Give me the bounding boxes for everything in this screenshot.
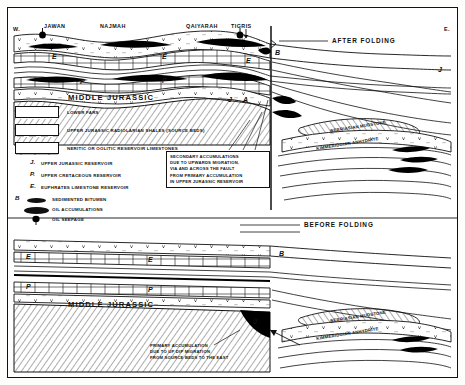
legend-swatch-oil-lens bbox=[24, 207, 49, 214]
locality-najmah: NAJMAH bbox=[100, 23, 126, 29]
legend-letter-p: P. bbox=[30, 170, 35, 177]
legend-label-oil-seepage: OIL SEEPAGE bbox=[52, 217, 84, 222]
fault-accumulation-3 bbox=[272, 110, 302, 118]
formation-middle-jurassic-upper: MIDDLE JURASSIC bbox=[68, 93, 154, 102]
unit-marker-j-2: J bbox=[228, 96, 232, 103]
figure-root: v — bbox=[0, 0, 465, 385]
unit-marker-b-upper: B bbox=[275, 49, 280, 56]
unit-marker-e-lower-2: E bbox=[148, 256, 153, 263]
east-limb-upper bbox=[272, 62, 451, 200]
unit-marker-e-3: E bbox=[246, 57, 251, 64]
unit-marker-b-lower: B bbox=[279, 250, 284, 257]
legend-swatch-shale-border bbox=[15, 124, 59, 136]
formation-middle-jurassic-lower: MIDDLE JURASSIC bbox=[68, 300, 154, 309]
legend-label-oil-accumulations: OIL ACCUMULATIONS bbox=[52, 207, 103, 212]
bitumen-seam-lower bbox=[14, 274, 270, 282]
legend-label-bitumen: SEDIMENTED BITUMEN bbox=[52, 197, 107, 202]
fault-accumulation-2 bbox=[272, 96, 296, 104]
annotation-box-secondary-accumulation: SECONDARY ACCUMULATIONS DUE TO UPWARDS M… bbox=[166, 151, 270, 188]
legend-label-reservoir-limestones: NERITIC OR OOLITIC RESERVOIR LIMESTONES bbox=[67, 146, 178, 151]
legend-label-radiolarian-shale: UPPER JURASSIC RADIOLARIAN SHALES (SOURC… bbox=[67, 128, 205, 133]
source-bed-lens-lower-2 bbox=[400, 347, 438, 353]
legend-label-j: UPPER JURASSIC RESERVOIR bbox=[41, 161, 113, 166]
legend-swatch-bitumen-lens bbox=[27, 198, 46, 203]
legend-label-lower-fars: LOWER FARS bbox=[67, 110, 99, 115]
legend-letter-j: J. bbox=[30, 158, 35, 165]
unit-marker-j-1: J bbox=[438, 66, 442, 73]
legend-letter-b: B bbox=[15, 194, 19, 201]
locality-qaiyarah: QAIYARAH bbox=[186, 23, 218, 29]
unit-marker-p-1: P bbox=[80, 78, 85, 85]
locality-jawan: JAWAN bbox=[44, 23, 65, 29]
panel-title-after-folding: AFTER FOLDING bbox=[332, 37, 396, 44]
unit-marker-e-2: E bbox=[162, 53, 167, 60]
annotation-upper-line-5: IN UPPER JURASSIC RESERVOIR bbox=[170, 179, 266, 185]
middle-jurassic-core-lower bbox=[14, 304, 270, 372]
orientation-west: W. bbox=[13, 26, 20, 32]
orientation-east: E. bbox=[444, 26, 450, 32]
legend-letter-e: E. bbox=[30, 182, 36, 189]
unit-marker-a-upper: A bbox=[243, 96, 248, 103]
source-bed-lens-1 bbox=[392, 146, 430, 152]
unit-marker-e-1: E bbox=[52, 53, 57, 60]
unit-marker-p-2: P bbox=[162, 77, 167, 84]
unit-marker-e-lower-1: E bbox=[26, 253, 31, 260]
source-bed-lens-3 bbox=[388, 167, 428, 173]
unit-marker-p-lower-1: P bbox=[26, 283, 31, 290]
cross-section-drawing: v — bbox=[0, 0, 465, 385]
annotation-block-primary-accumulation: PRIMARY ACCUMULATION DUE TO UP DIP MIGRA… bbox=[150, 343, 270, 362]
legend-label-p: UPPER CRETACEOUS RESERVOIR bbox=[41, 173, 121, 178]
unit-marker-j-lower: J bbox=[253, 318, 257, 325]
annotation-lower-line-3: FROM SOURCE BEDS TO THE EAST bbox=[150, 355, 270, 361]
source-bed-lens-2 bbox=[400, 157, 438, 163]
legend-swatch-brick-border bbox=[15, 142, 59, 154]
unit-marker-p-lower-2: P bbox=[148, 286, 153, 293]
legend-label-e: EUPHRATES LIMESTONE RESERVOIR bbox=[41, 185, 129, 190]
source-bed-lens-lower-1 bbox=[392, 336, 430, 342]
panel-title-before-folding: BEFORE FOLDING bbox=[304, 221, 374, 228]
legend-swatch-fars-border bbox=[15, 106, 59, 118]
